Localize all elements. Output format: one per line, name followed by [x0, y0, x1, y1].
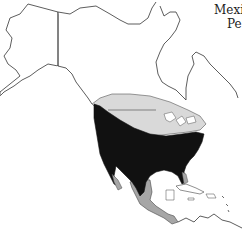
range-map — [0, 0, 242, 236]
hispaniola — [206, 194, 216, 198]
jamaica — [188, 198, 194, 200]
yucatan — [166, 190, 174, 200]
map-label-line1: Mexi — [214, 3, 242, 17]
map-label-line2: Pe — [227, 17, 242, 31]
